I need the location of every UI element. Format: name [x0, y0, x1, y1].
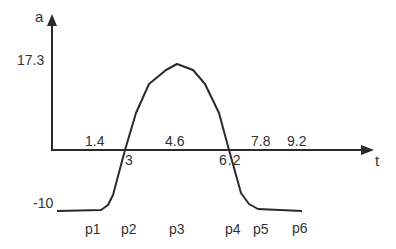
annotation-below-0: 3: [125, 153, 133, 167]
y-axis-arrow-icon: [47, 14, 57, 26]
point-label-p2: p2: [121, 222, 137, 236]
point-label-p4: p4: [225, 222, 241, 236]
x-axis-label: t: [375, 153, 379, 168]
point-label-p5: p5: [253, 222, 269, 236]
line-chart: a 17.3 -10 t 1.4 4.6 7.8 9.2 3 6.2 p1 p2…: [0, 0, 396, 249]
x-axis-arrow-icon: [361, 145, 374, 155]
y-tick-min: -10: [33, 196, 53, 210]
y-axis-label: a: [35, 9, 43, 24]
annotation-above-1: 4.6: [165, 134, 184, 148]
point-label-p1: p1: [85, 222, 101, 236]
point-label-p6: p6: [292, 221, 308, 235]
chart-canvas: [0, 0, 396, 249]
annotation-below-1: 6.2: [219, 153, 241, 167]
annotation-above-3: 9.2: [287, 134, 306, 148]
point-label-p3: p3: [169, 222, 185, 236]
annotation-above-0: 1.4: [85, 134, 104, 148]
annotation-above-2: 7.8: [251, 134, 270, 148]
y-tick-max: 17.3: [17, 53, 44, 67]
